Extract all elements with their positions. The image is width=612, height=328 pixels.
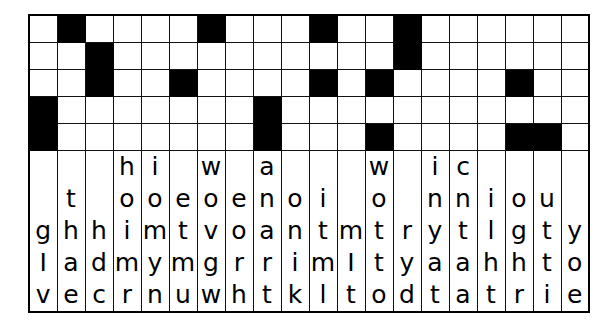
blocked-cell[interactable] (85, 70, 113, 97)
empty-cell[interactable] (337, 15, 365, 43)
letter-cell[interactable]: w (197, 151, 225, 184)
empty-cell[interactable] (225, 70, 253, 97)
blocked-cell[interactable] (29, 124, 57, 151)
letter-cell[interactable]: g (197, 247, 225, 279)
empty-cell[interactable] (141, 97, 169, 124)
empty-cell[interactable] (477, 43, 505, 70)
empty-cell[interactable] (421, 43, 449, 70)
letter-cell[interactable]: u (169, 279, 197, 312)
letter-cell[interactable]: c (85, 279, 113, 312)
empty-cell[interactable] (57, 70, 85, 97)
letter-cell-empty[interactable] (337, 183, 365, 215)
empty-cell[interactable] (141, 15, 169, 43)
empty-cell[interactable] (365, 97, 393, 124)
letter-cell[interactable]: i (421, 151, 449, 184)
letter-cell[interactable]: o (197, 183, 225, 215)
empty-cell[interactable] (477, 97, 505, 124)
empty-cell[interactable] (309, 43, 337, 70)
letter-cell[interactable]: o (365, 279, 393, 312)
letter-cell[interactable]: e (57, 279, 85, 312)
empty-cell[interactable] (253, 70, 281, 97)
blocked-cell[interactable] (393, 43, 421, 70)
empty-cell[interactable] (113, 15, 141, 43)
letter-cell[interactable]: i (477, 183, 505, 215)
letter-cell-empty[interactable] (393, 151, 421, 184)
letter-cell[interactable]: h (505, 247, 533, 279)
empty-cell[interactable] (561, 15, 589, 43)
letter-cell[interactable]: a (421, 247, 449, 279)
letter-cell[interactable]: d (85, 247, 113, 279)
empty-cell[interactable] (169, 15, 197, 43)
letter-cell[interactable]: n (141, 279, 169, 312)
letter-cell[interactable]: d (393, 279, 421, 312)
letter-cell[interactable]: w (365, 151, 393, 184)
empty-cell[interactable] (57, 97, 85, 124)
empty-cell[interactable] (393, 70, 421, 97)
letter-cell[interactable]: h (113, 151, 141, 184)
empty-cell[interactable] (225, 15, 253, 43)
blocked-cell[interactable] (253, 124, 281, 151)
empty-cell[interactable] (85, 97, 113, 124)
letter-cell-empty[interactable] (281, 151, 309, 184)
letter-cell-empty[interactable] (505, 151, 533, 184)
letter-cell[interactable]: o (365, 183, 393, 215)
letter-cell[interactable]: I (29, 247, 57, 279)
blocked-cell[interactable] (309, 15, 337, 43)
empty-cell[interactable] (29, 70, 57, 97)
letter-cell[interactable]: t (309, 215, 337, 247)
letter-cell[interactable]: r (225, 247, 253, 279)
empty-cell[interactable] (113, 97, 141, 124)
blocked-cell[interactable] (169, 70, 197, 97)
letter-cell-empty[interactable] (477, 151, 505, 184)
letter-cell[interactable]: t (421, 279, 449, 312)
empty-cell[interactable] (225, 43, 253, 70)
letter-cell[interactable]: o (561, 247, 589, 279)
letter-cell-empty[interactable] (57, 151, 85, 184)
letter-cell[interactable]: t (57, 183, 85, 215)
empty-cell[interactable] (169, 124, 197, 151)
empty-cell[interactable] (533, 15, 561, 43)
letter-cell[interactable]: i (533, 279, 561, 312)
empty-cell[interactable] (505, 15, 533, 43)
letter-cell[interactable]: v (29, 279, 57, 312)
empty-cell[interactable] (533, 43, 561, 70)
letter-cell[interactable]: c (449, 151, 477, 184)
empty-cell[interactable] (113, 43, 141, 70)
letter-cell-empty[interactable] (225, 151, 253, 184)
empty-cell[interactable] (281, 70, 309, 97)
empty-cell[interactable] (141, 43, 169, 70)
letter-cell[interactable]: t (169, 215, 197, 247)
letter-cell[interactable]: r (253, 247, 281, 279)
letter-cell[interactable]: n (449, 183, 477, 215)
letter-cell[interactable]: v (197, 215, 225, 247)
empty-cell[interactable] (421, 124, 449, 151)
letter-cell[interactable]: i (113, 215, 141, 247)
letter-cell[interactable]: t (533, 215, 561, 247)
empty-cell[interactable] (281, 15, 309, 43)
empty-cell[interactable] (253, 15, 281, 43)
letter-cell[interactable]: g (505, 215, 533, 247)
empty-cell[interactable] (253, 43, 281, 70)
letter-cell[interactable]: n (421, 183, 449, 215)
empty-cell[interactable] (393, 124, 421, 151)
empty-cell[interactable] (449, 97, 477, 124)
letter-cell[interactable]: y (141, 247, 169, 279)
blocked-cell[interactable] (85, 43, 113, 70)
letter-cell[interactable]: a (449, 247, 477, 279)
empty-cell[interactable] (505, 97, 533, 124)
letter-cell[interactable]: e (561, 279, 589, 312)
empty-cell[interactable] (85, 124, 113, 151)
blocked-cell[interactable] (533, 124, 561, 151)
letter-cell-empty[interactable] (309, 151, 337, 184)
empty-cell[interactable] (113, 124, 141, 151)
letter-cell[interactable]: g (29, 215, 57, 247)
letter-cell-empty[interactable] (85, 151, 113, 184)
empty-cell[interactable] (281, 124, 309, 151)
blocked-cell[interactable] (309, 70, 337, 97)
letter-cell[interactable]: i (281, 247, 309, 279)
empty-cell[interactable] (365, 15, 393, 43)
blocked-cell[interactable] (505, 124, 533, 151)
empty-cell[interactable] (225, 97, 253, 124)
empty-cell[interactable] (309, 97, 337, 124)
blocked-cell[interactable] (393, 15, 421, 43)
